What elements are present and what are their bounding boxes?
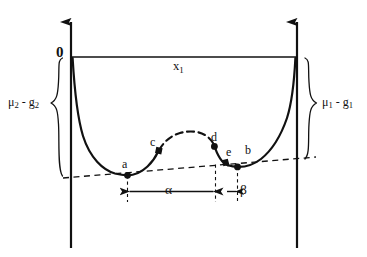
left-bracket-g-sub: 2 xyxy=(35,100,39,110)
point-marker-d xyxy=(211,143,218,150)
point-marker-b xyxy=(234,164,241,171)
left-brace xyxy=(51,58,63,176)
left-bracket-label: μ2 - g2 xyxy=(8,96,39,110)
point-label-e: e xyxy=(226,146,231,158)
point-label-a: a xyxy=(122,158,127,170)
free-energy-curve-spinodal-hump xyxy=(159,131,214,149)
alpha-interval-label: α xyxy=(165,183,172,197)
free-energy-curve-right-branch xyxy=(228,58,296,167)
free-energy-diagram-svg xyxy=(0,0,367,257)
right-bracket-g-sub: 1 xyxy=(349,100,353,110)
right-brace xyxy=(305,58,317,159)
free-energy-curve-left-branch xyxy=(73,58,128,175)
free-energy-curve-a-to-c xyxy=(128,152,158,175)
point-label-c: c xyxy=(150,136,155,148)
x-axis-label: x1 xyxy=(173,60,184,75)
right-bracket-separator: - xyxy=(333,95,343,109)
point-marker-a xyxy=(124,172,131,179)
x-axis-label-sub: 1 xyxy=(179,65,184,75)
figure-container: 0 x1 μ2 - g2 μ1 - g1 a c d e b α β xyxy=(0,0,367,257)
right-bracket-label: μ1 - g1 xyxy=(322,96,353,110)
common-tangent-line xyxy=(63,157,316,178)
point-label-d: d xyxy=(211,131,217,143)
left-bracket-separator: - xyxy=(19,95,29,109)
point-marker-c xyxy=(155,147,163,155)
beta-interval-label: β xyxy=(240,183,247,197)
point-label-b: b xyxy=(245,144,251,156)
origin-label: 0 xyxy=(56,45,64,60)
